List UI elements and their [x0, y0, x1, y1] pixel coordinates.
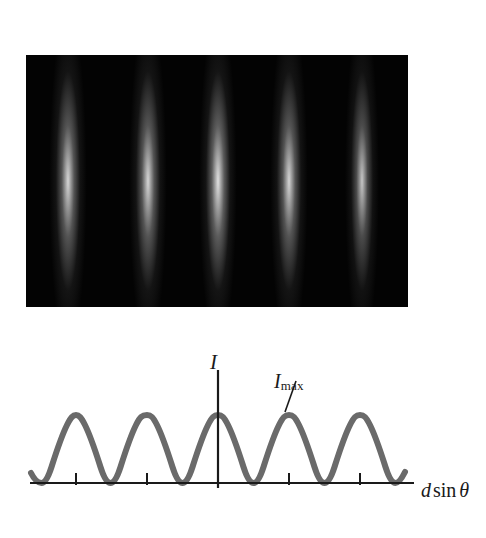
intensity-graph-svg: [0, 340, 486, 538]
double-slit-interference-figure: −2λ −λ 0 λ 2λ I Imax dsinθ: [0, 0, 486, 538]
x-axis-label: dsinθ: [421, 480, 469, 500]
bright-fringe: [341, 55, 383, 307]
fringe-glow: [197, 55, 239, 307]
x-axis-label-theta: θ: [459, 479, 469, 501]
fringe-glow: [268, 55, 310, 307]
fringe-glow: [127, 55, 169, 307]
intensity-graph: −2λ −λ 0 λ 2λ: [0, 340, 486, 538]
fringe-glow: [47, 55, 89, 307]
bright-fringe: [127, 55, 169, 307]
bright-fringe: [197, 55, 239, 307]
x-axis-label-d: d: [421, 479, 431, 501]
imax-subscript: max: [281, 378, 304, 393]
x-axis-label-sin: sin: [433, 479, 456, 501]
imax-annotation-label: Imax: [274, 371, 304, 392]
interference-fringe-photograph: [26, 55, 408, 307]
bright-fringe: [47, 55, 89, 307]
y-axis-label: I: [210, 352, 217, 373]
fringe-glow: [341, 55, 383, 307]
imax-symbol: I: [274, 370, 281, 392]
bright-fringe: [268, 55, 310, 307]
